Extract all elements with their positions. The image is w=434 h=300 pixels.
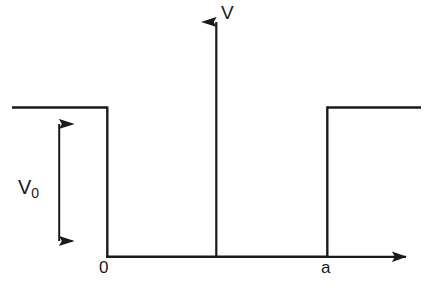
- well-depth-label: V0: [18, 177, 39, 200]
- well-depth-label-base: V: [18, 176, 31, 198]
- well-depth-label-subscript: 0: [31, 185, 39, 201]
- x-axis-tick-label-origin: 0: [99, 259, 108, 276]
- v-axis-label: V: [221, 3, 234, 22]
- x-axis-tick-label-a: a: [321, 259, 330, 276]
- potential-well-plot: [0, 0, 434, 300]
- potential-well-figure: V V0 0 a: [0, 0, 434, 300]
